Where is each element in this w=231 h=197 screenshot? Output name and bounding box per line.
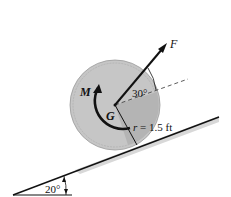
incline-angle-label: 20° xyxy=(45,183,60,195)
arrowhead-icon xyxy=(64,189,68,194)
arrowhead-icon xyxy=(62,177,66,182)
force-label: F xyxy=(169,37,178,51)
center-point xyxy=(114,104,117,107)
rolling-disk-diagram: 20° r = 1.5 ft r = 1.5 ft F 30° M G xyxy=(0,0,231,197)
svg-text:r = 1.5 ft: r = 1.5 ft xyxy=(133,121,172,133)
force-angle-label: 30° xyxy=(132,87,147,99)
moment-label: M xyxy=(79,85,91,99)
center-label: G xyxy=(106,109,115,123)
